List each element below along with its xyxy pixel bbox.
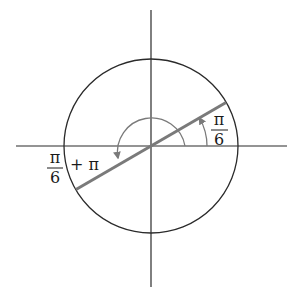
svg-text:π: π [50, 148, 61, 167]
unit-circle-diagram: π 6 π 6 + π [0, 0, 302, 297]
small-angle-label: π 6 [211, 110, 228, 149]
svg-text:π: π [214, 110, 225, 129]
svg-text:6: 6 [50, 168, 60, 187]
svg-text:+ π: + π [70, 155, 99, 174]
small-angle-arc [200, 118, 208, 146]
svg-text:6: 6 [214, 130, 224, 149]
